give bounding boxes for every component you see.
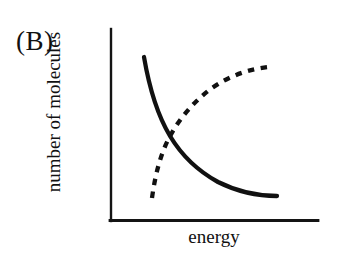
series-decaying-distribution	[144, 57, 277, 196]
figure-panel-b: (B) number of molecules energy	[0, 0, 338, 256]
plot-area	[0, 0, 338, 256]
